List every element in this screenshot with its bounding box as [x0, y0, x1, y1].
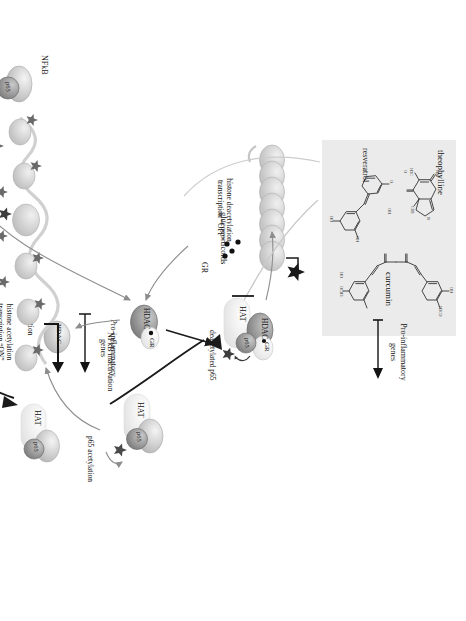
arrow-gr-to-hdac — [146, 246, 188, 300]
arrow-p65-to-chromatin — [46, 368, 100, 430]
arrowhead-nfkb-inactivation — [208, 334, 222, 350]
arrow-oxidative-stress-to-hdac — [0, 188, 130, 300]
arrow-drugs-inhibit-complex — [244, 200, 318, 300]
arrow-hdac-to-degradation — [76, 320, 120, 328]
pathway-arrows — [0, 0, 466, 621]
arrow-p65-acetylation-loop — [106, 452, 122, 464]
arrowhead-nfkb-activation — [2, 396, 18, 408]
arrow-drugs-secondary — [184, 157, 320, 196]
arrow-nfkb-activation — [0, 104, 14, 398]
arrow-hdac-to-repressive — [166, 330, 214, 344]
arrow-repressive-to-closed-chromatin — [266, 232, 273, 300]
pathway-canvas: HN N O CH3 H3C O OH OH HO OH H3CO OCH3 H… — [0, 0, 466, 621]
arrow-nfkb-inactivation — [110, 340, 204, 404]
figure-root: HN N O CH3 H3C O OH OH HO OH H3CO OCH3 H… — [0, 0, 466, 621]
